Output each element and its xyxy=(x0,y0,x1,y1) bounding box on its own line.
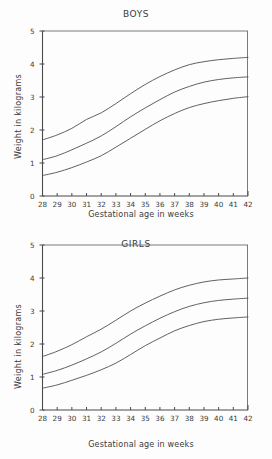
y-tick-label-boys-5: 5 xyxy=(30,27,35,36)
x-tick-label-girls-28: 28 xyxy=(38,414,48,423)
chart-girls: GIRLS 012345 282930313233343536373839404… xyxy=(0,230,272,459)
x-tick-label-boys-38: 38 xyxy=(185,200,195,209)
axes-boys xyxy=(43,31,249,196)
curves-boys xyxy=(43,57,249,175)
x-tick-label-boys-37: 37 xyxy=(170,200,179,209)
y-tick-label-boys-3: 3 xyxy=(30,93,35,102)
y-axis-label-girls: Weight in kilograms xyxy=(14,277,23,417)
x-tick-label-boys-42: 42 xyxy=(243,200,252,209)
x-tick-label-girls-36: 36 xyxy=(155,414,165,423)
x-tick-label-boys-33: 33 xyxy=(111,200,120,209)
curve-boys-10th-percentile xyxy=(43,97,249,176)
x-tick-label-girls-41: 41 xyxy=(229,414,238,423)
x-axis-label-boys: Gestational age in weeks xyxy=(30,210,252,219)
y-tick-label-girls-0: 0 xyxy=(30,406,35,415)
plot-area-girls: 012345 282930313233343536373839404142 xyxy=(0,230,272,459)
x-axis-label-girls: Gestational age in weeks xyxy=(30,440,252,449)
plot-area-boys: 012345 282930313233343536373839404142 xyxy=(0,0,272,229)
y-tick-label-boys-0: 0 xyxy=(30,192,35,201)
x-tick-label-boys-40: 40 xyxy=(214,200,224,209)
y-tick-label-boys-1: 1 xyxy=(30,159,35,168)
x-tick-label-girls-38: 38 xyxy=(185,414,195,423)
y-tick-label-girls-1: 1 xyxy=(30,373,35,382)
x-tick-label-girls-35: 35 xyxy=(141,414,150,423)
x-tick-label-girls-42: 42 xyxy=(243,414,252,423)
x-tick-label-girls-32: 32 xyxy=(97,414,106,423)
y-tick-label-girls-3: 3 xyxy=(30,307,35,316)
x-tick-label-boys-39: 39 xyxy=(199,200,209,209)
x-ticks-boys: 282930313233343536373839404142 xyxy=(38,191,253,209)
x-tick-label-girls-33: 33 xyxy=(111,414,120,423)
curve-boys-90th-percentile xyxy=(43,57,249,139)
x-tick-label-girls-34: 34 xyxy=(126,414,136,423)
x-tick-label-girls-29: 29 xyxy=(53,414,63,423)
x-tick-label-girls-30: 30 xyxy=(67,414,77,423)
y-tick-label-girls-2: 2 xyxy=(30,340,35,349)
x-tick-label-boys-31: 31 xyxy=(82,200,91,209)
y-tick-label-girls-4: 4 xyxy=(30,274,35,283)
x-tick-label-boys-28: 28 xyxy=(38,200,48,209)
x-ticks-girls: 282930313233343536373839404142 xyxy=(38,405,253,423)
x-tick-label-girls-31: 31 xyxy=(82,414,91,423)
x-tick-label-boys-36: 36 xyxy=(155,200,165,209)
y-tick-label-girls-5: 5 xyxy=(30,241,35,250)
y-tick-label-boys-2: 2 xyxy=(30,126,35,135)
x-tick-label-boys-35: 35 xyxy=(141,200,150,209)
chart-boys: BOYS 012345 2829303132333435363738394041… xyxy=(0,0,272,229)
x-tick-label-boys-30: 30 xyxy=(67,200,77,209)
x-tick-label-boys-34: 34 xyxy=(126,200,136,209)
x-tick-label-boys-41: 41 xyxy=(229,200,238,209)
x-tick-label-boys-32: 32 xyxy=(97,200,106,209)
curve-girls-10th-percentile xyxy=(43,317,249,388)
curve-boys-50th-percentile xyxy=(43,77,249,160)
axes-girls xyxy=(43,245,249,410)
curves-girls xyxy=(43,278,249,388)
curve-girls-50th-percentile xyxy=(43,298,249,374)
y-axis-label-boys: Weight in kilograms xyxy=(14,47,23,187)
x-tick-label-girls-37: 37 xyxy=(170,414,179,423)
x-tick-label-girls-39: 39 xyxy=(199,414,209,423)
figure-page: BOYS 012345 2829303132333435363738394041… xyxy=(0,0,272,459)
curve-girls-90th-percentile xyxy=(43,278,249,357)
x-tick-label-boys-29: 29 xyxy=(53,200,63,209)
y-tick-label-boys-4: 4 xyxy=(30,60,35,69)
x-tick-label-girls-40: 40 xyxy=(214,414,224,423)
